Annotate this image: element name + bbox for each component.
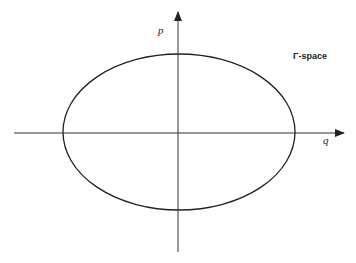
phase-space-diagram: p q Γ-space [0,0,356,263]
p-axis-label: p [157,24,164,36]
gamma-space-label: Γ-space [293,51,327,61]
q-axis-label: q [323,134,329,146]
phase-trajectory-ellipse [63,54,295,210]
